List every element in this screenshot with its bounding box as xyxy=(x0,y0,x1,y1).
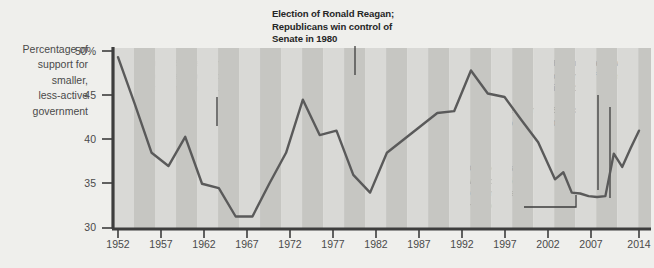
chart-figure: Percentage of support for smaller, less-… xyxy=(0,0,654,268)
plot-band xyxy=(554,48,575,228)
plot-band xyxy=(323,48,344,228)
plot-band xyxy=(218,48,239,228)
plot-band xyxy=(512,48,533,228)
plot-band xyxy=(491,48,512,228)
plot-band xyxy=(302,48,323,228)
plot-band xyxy=(155,48,176,228)
plot-band xyxy=(260,48,281,228)
plot-band xyxy=(428,48,449,228)
plot-band xyxy=(575,48,596,228)
plot-bands xyxy=(113,48,651,228)
chart-svg xyxy=(0,0,654,268)
plot-band xyxy=(638,48,651,228)
plot-band xyxy=(407,48,428,228)
plot-band xyxy=(596,48,617,228)
plot-band xyxy=(134,48,155,228)
x-axis-ticks xyxy=(118,230,639,238)
plot-band xyxy=(239,48,260,228)
plot-band xyxy=(449,48,470,228)
plot-band xyxy=(197,48,218,228)
plot-band xyxy=(365,48,386,228)
y-axis-ticks xyxy=(102,51,112,228)
